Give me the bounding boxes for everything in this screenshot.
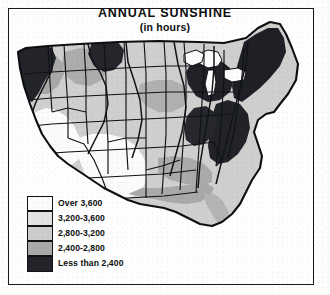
legend-label-2400-2800: 2,400-2,800 (58, 243, 105, 253)
legend-swatch-2400-2800 (27, 241, 53, 256)
legend-item: 3,200-3,600 (27, 210, 124, 225)
legend-swatch-over-3600 (27, 196, 53, 211)
band-over-3600-ca-interior (20, 132, 44, 178)
legend-swatch-3200-3600 (27, 211, 53, 226)
map-legend: Over 3,600 3,200-3,600 2,800-3,200 2,400… (27, 195, 124, 271)
legend-swatch-less-than-2400 (27, 256, 53, 271)
legend-item: Over 3,600 (27, 195, 124, 210)
legend-label-over-3600: Over 3,600 (58, 198, 102, 208)
legend-label-less-than-2400: Less than 2,400 (58, 258, 124, 268)
legend-item: Less than 2,400 (27, 256, 124, 271)
legend-swatch-2800-3200 (27, 226, 53, 241)
legend-item: 2,800-3,200 (27, 225, 124, 240)
legend-label-2800-3200: 2,800-3,200 (58, 228, 105, 238)
legend-item: 2,400-2,800 (27, 241, 124, 256)
legend-label-3200-3600: 3,200-3,600 (58, 213, 105, 223)
sunshine-map-figure: ANNUAL SUNSHINE (in hours) (0, 0, 330, 295)
